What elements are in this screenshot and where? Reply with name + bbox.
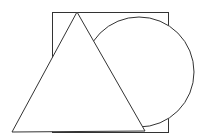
shapes-diagram [0,0,204,137]
